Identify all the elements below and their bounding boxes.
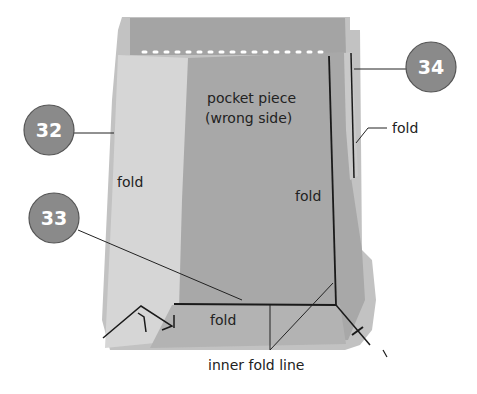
step-badge-32: 32 — [24, 105, 74, 155]
horizontal-fold-line — [174, 304, 336, 305]
fold-left-label: fold — [117, 174, 143, 190]
pocket-title-line2: (wrong side) — [205, 110, 292, 126]
step-badge-33: 33 — [29, 193, 79, 243]
step-badge-34: 34 — [406, 42, 456, 92]
top-band — [130, 18, 346, 55]
svg-text:32: 32 — [36, 119, 62, 141]
corner-mark — [383, 350, 387, 357]
fold-right-pointer-label: fold — [392, 120, 418, 136]
pocket-title-line1: pocket piece — [207, 90, 296, 106]
sewing-diagram: pocket piece (wrong side) fold fold fold… — [0, 0, 477, 394]
inner-fold-line-label: inner fold line — [208, 357, 304, 373]
fold-bottom-label: fold — [210, 312, 236, 328]
bottom-band — [150, 305, 346, 348]
svg-text:34: 34 — [418, 56, 444, 78]
svg-text:33: 33 — [41, 207, 67, 229]
fold-right-vertical-label: fold — [295, 188, 321, 204]
